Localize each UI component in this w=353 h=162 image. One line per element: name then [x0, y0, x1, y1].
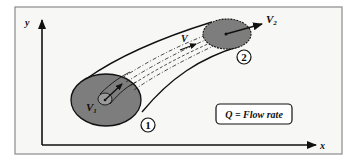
diagram-frame — [15, 7, 342, 154]
x-axis-label: x — [319, 140, 325, 151]
section-2-marker-label: 2 — [241, 51, 247, 63]
velocity-2-subscript: 2 — [272, 19, 277, 27]
flow-rate-legend-text: Q = Flow rate — [225, 109, 283, 120]
section-1-marker-label: 1 — [145, 119, 151, 131]
flow-rate-legend: Q = Flow rate — [216, 104, 292, 124]
section-1-marker: 1 — [141, 118, 155, 132]
velocity-1-subscript: 1 — [93, 107, 97, 115]
section-2-marker: 2 — [237, 50, 251, 64]
streamtube-diagram: y x V V1 V2 1 2 Q = Flo — [0, 0, 353, 162]
y-axis-label: y — [24, 17, 30, 28]
